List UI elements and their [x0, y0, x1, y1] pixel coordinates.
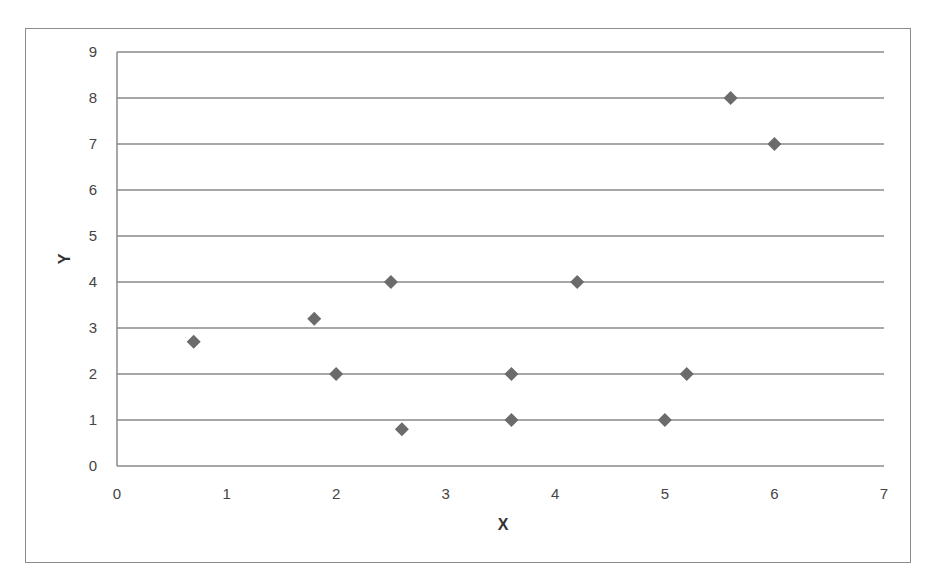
data-point-diamond [307, 312, 321, 326]
data-point-diamond [570, 275, 584, 289]
data-point-diamond [504, 367, 518, 381]
x-tick-label: 5 [661, 485, 669, 502]
x-tick-label: 0 [113, 485, 121, 502]
x-tick-label: 7 [880, 485, 888, 502]
gridlines [117, 52, 884, 420]
y-axis-tick-labels: 0123456789 [89, 43, 97, 474]
data-point-diamond [658, 413, 672, 427]
y-tick-label: 1 [89, 411, 97, 428]
y-tick-label: 0 [89, 457, 97, 474]
x-tick-label: 2 [332, 485, 340, 502]
data-point-diamond [680, 367, 694, 381]
data-point-diamond [395, 422, 409, 436]
data-points [187, 91, 782, 436]
x-axis-title: X [498, 516, 509, 533]
scatter-plot: 0123456789 01234567 X Y [0, 0, 936, 580]
data-point-diamond [504, 413, 518, 427]
y-tick-label: 2 [89, 365, 97, 382]
x-axis-tick-labels: 01234567 [113, 485, 888, 502]
y-tick-label: 7 [89, 135, 97, 152]
x-tick-label: 3 [442, 485, 450, 502]
data-point-diamond [724, 91, 738, 105]
y-tick-label: 3 [89, 319, 97, 336]
axes [117, 52, 884, 466]
data-point-diamond [329, 367, 343, 381]
y-tick-label: 9 [89, 43, 97, 60]
y-axis-title: Y [56, 253, 73, 264]
x-tick-label: 1 [222, 485, 230, 502]
y-tick-label: 6 [89, 181, 97, 198]
data-point-diamond [384, 275, 398, 289]
data-point-diamond [187, 335, 201, 349]
y-tick-label: 5 [89, 227, 97, 244]
y-tick-label: 4 [89, 273, 97, 290]
x-tick-label: 6 [770, 485, 778, 502]
x-tick-label: 4 [551, 485, 559, 502]
data-point-diamond [767, 137, 781, 151]
y-tick-label: 8 [89, 89, 97, 106]
